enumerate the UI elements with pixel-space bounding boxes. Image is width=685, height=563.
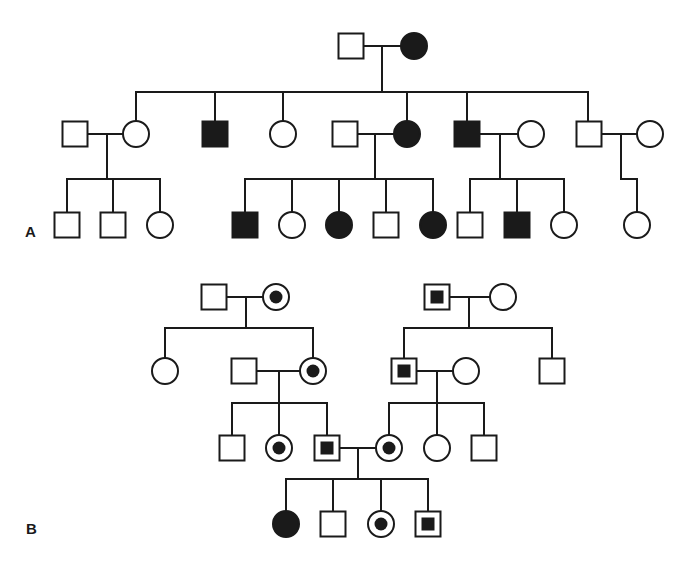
pedigree-figure: A B <box>0 0 685 563</box>
female-unaffected-circle-icon <box>518 121 544 147</box>
male-unaffected-square-icon <box>101 213 126 238</box>
carrier-marker-icon <box>273 442 286 455</box>
female-unaffected-circle-icon <box>270 121 296 147</box>
female-unaffected-circle-icon <box>490 284 516 310</box>
male-unaffected-square-icon <box>577 122 602 147</box>
male-unaffected-square-icon <box>220 436 245 461</box>
pedigree-diagram <box>0 0 685 563</box>
male-unaffected-square-icon <box>374 213 399 238</box>
male-unaffected-square-icon <box>540 359 565 384</box>
carrier-marker-icon <box>383 442 396 455</box>
carrier-marker-icon <box>321 442 334 455</box>
male-unaffected-square-icon <box>333 122 358 147</box>
female-unaffected-circle-icon <box>424 435 450 461</box>
carrier-marker-icon <box>270 291 283 304</box>
female-unaffected-circle-icon <box>123 121 149 147</box>
male-unaffected-square-icon <box>472 436 497 461</box>
female-unaffected-circle-icon <box>147 212 173 238</box>
male-affected-square-icon <box>455 122 480 147</box>
male-carrier-square-icon <box>315 436 340 461</box>
female-carrier-circle-icon <box>300 358 326 384</box>
male-carrier-square-icon <box>392 359 417 384</box>
female-unaffected-circle-icon <box>279 212 305 238</box>
female-unaffected-circle-icon <box>637 121 663 147</box>
male-unaffected-square-icon <box>55 213 80 238</box>
carrier-marker-icon <box>431 291 444 304</box>
female-affected-circle-icon <box>394 121 420 147</box>
male-affected-square-icon <box>505 213 530 238</box>
female-unaffected-circle-icon <box>453 358 479 384</box>
female-carrier-circle-icon <box>368 511 394 537</box>
female-unaffected-circle-icon <box>624 212 650 238</box>
female-affected-circle-icon <box>420 212 446 238</box>
female-carrier-circle-icon <box>263 284 289 310</box>
male-unaffected-square-icon <box>232 359 257 384</box>
pedigree-lines <box>67 46 637 511</box>
female-unaffected-circle-icon <box>551 212 577 238</box>
female-affected-circle-icon <box>273 511 299 537</box>
male-carrier-square-icon <box>425 285 450 310</box>
female-carrier-circle-icon <box>266 435 292 461</box>
male-affected-square-icon <box>233 213 258 238</box>
male-unaffected-square-icon <box>63 122 88 147</box>
male-unaffected-square-icon <box>202 285 227 310</box>
male-unaffected-square-icon <box>339 34 364 59</box>
panel-label-a: A <box>25 223 36 240</box>
female-affected-circle-icon <box>326 212 352 238</box>
carrier-marker-icon <box>375 518 388 531</box>
male-affected-square-icon <box>203 122 228 147</box>
male-carrier-square-icon <box>416 512 441 537</box>
carrier-marker-icon <box>422 518 435 531</box>
panel-label-b: B <box>26 520 37 537</box>
female-unaffected-circle-icon <box>152 358 178 384</box>
carrier-marker-icon <box>398 365 411 378</box>
carrier-marker-icon <box>307 365 320 378</box>
male-unaffected-square-icon <box>321 512 346 537</box>
female-carrier-circle-icon <box>376 435 402 461</box>
male-unaffected-square-icon <box>458 213 483 238</box>
female-affected-circle-icon <box>401 33 427 59</box>
